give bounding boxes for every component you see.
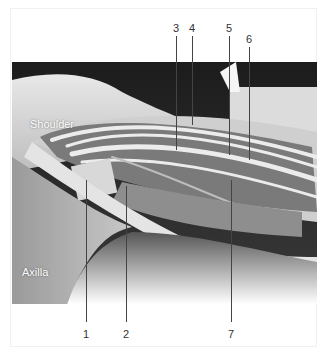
callout-4: 4 bbox=[189, 22, 195, 34]
leader-line-4 bbox=[192, 36, 193, 125]
leader-line-6 bbox=[249, 47, 250, 160]
callout-5: 5 bbox=[226, 22, 232, 34]
leader-line-5 bbox=[229, 36, 230, 155]
leader-line-1 bbox=[86, 180, 87, 322]
callout-1: 1 bbox=[83, 328, 89, 340]
leader-line-7 bbox=[231, 180, 232, 322]
leader-line-3 bbox=[176, 36, 177, 150]
callout-2: 2 bbox=[123, 328, 129, 340]
callout-6: 6 bbox=[246, 33, 252, 45]
shoulder-label: Shoulder bbox=[30, 118, 74, 130]
axilla-label: Axilla bbox=[22, 266, 48, 278]
dissection-photo: Shoulder Axilla bbox=[12, 62, 317, 304]
leader-line-2 bbox=[126, 186, 127, 322]
callout-7: 7 bbox=[228, 328, 234, 340]
callout-3: 3 bbox=[173, 22, 179, 34]
